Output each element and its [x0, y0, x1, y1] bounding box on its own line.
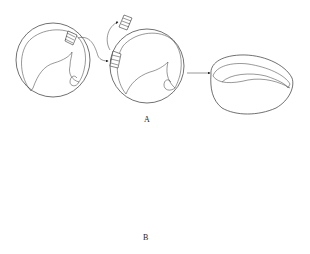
diagram-canvas — [0, 0, 310, 254]
panel-a-ring-2 — [110, 29, 184, 103]
panel-label-a: A — [144, 115, 150, 124]
arrow-a1-to-a2 — [78, 37, 108, 61]
panel-a-grain — [211, 55, 293, 114]
graft-segment-a1 — [65, 31, 77, 45]
panel-label-b: B — [143, 233, 148, 242]
excised-graft-a — [119, 15, 132, 30]
panel-a — [16, 15, 293, 114]
graft-site-a2 — [110, 51, 121, 68]
panel-a-ring-1 — [16, 23, 90, 97]
